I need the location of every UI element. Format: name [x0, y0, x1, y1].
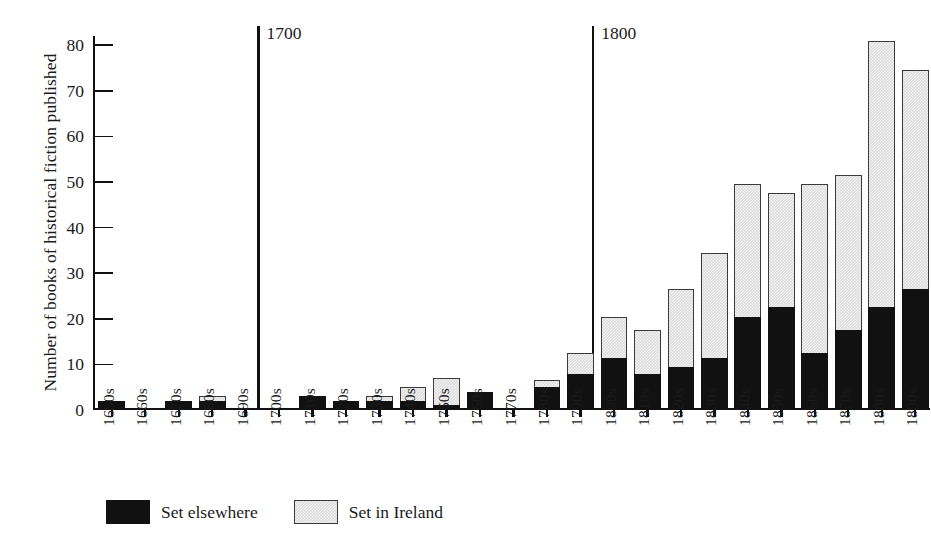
bar-1830s[interactable] [701, 253, 728, 410]
x-axis-label-1710s: 1710s [301, 388, 319, 426]
x-axis-label-1670s: 1670s [167, 388, 185, 426]
x-axis-label-1860s: 1860s [803, 388, 821, 426]
y-tick-20 [95, 318, 113, 320]
x-axis-label-1770s: 1770s [502, 388, 520, 426]
y-tick-30 [95, 272, 113, 274]
y-tick-50 [95, 181, 113, 183]
bar-segment-set-in-ireland [668, 289, 695, 367]
legend-swatch-light [294, 500, 338, 524]
y-tick-label-0: 0 [44, 400, 84, 421]
bar-1860s[interactable] [801, 184, 828, 410]
x-axis-label-1840s: 1840s [736, 388, 754, 426]
x-axis-label-1690s: 1690s [234, 388, 252, 426]
bar-segment-set-in-ireland [634, 330, 661, 373]
x-axis-label-1880s: 1880s [870, 388, 888, 426]
x-axis-label-1890s: 1890s [903, 388, 921, 426]
legend-swatch-dark [106, 500, 150, 524]
bar-segment-set-in-ireland [601, 317, 628, 358]
y-tick-label-70: 70 [44, 80, 84, 101]
bar-segment-set-in-ireland [768, 193, 795, 307]
y-tick-label-50: 50 [44, 171, 84, 192]
bar-1890s[interactable] [902, 70, 929, 410]
bar-segment-set-in-ireland [534, 380, 561, 387]
plot-area: 01020304050607080 17001800 1650s1660s167… [93, 36, 930, 410]
bar-1870s[interactable] [835, 175, 862, 410]
x-axis-label-1700s: 1700s [267, 388, 285, 426]
y-tick-40 [95, 227, 113, 229]
historical-fiction-stacked-bar-chart: Number of books of historical fiction pu… [0, 0, 931, 552]
legend-label: Set in Ireland [349, 502, 443, 523]
x-axis-label-1780s: 1780s [535, 388, 553, 426]
y-tick-label-60: 60 [44, 126, 84, 147]
y-tick-label-80: 80 [44, 35, 84, 56]
y-tick-80 [95, 44, 113, 46]
x-axis-label-1870s: 1870s [836, 388, 854, 426]
x-axis-label-1830s: 1830s [702, 388, 720, 426]
x-axis-label-1650s: 1650s [100, 388, 118, 426]
era-label-1700: 1700 [257, 23, 301, 44]
bar-1840s[interactable] [734, 184, 761, 410]
bar-segment-set-in-ireland [701, 253, 728, 358]
bar-segment-set-in-ireland [902, 70, 929, 289]
bar-segment-set-in-ireland [734, 184, 761, 316]
x-axis-label-1810s: 1810s [635, 388, 653, 426]
x-axis-label-1760s: 1760s [468, 388, 486, 426]
legend-item-set-elsewhere[interactable]: Set elsewhere [106, 500, 258, 524]
x-axis-label-1740s: 1740s [401, 388, 419, 426]
y-tick-10 [95, 364, 113, 366]
bar-segment-set-in-ireland [567, 353, 594, 374]
x-axis-label-1720s: 1720s [334, 388, 352, 426]
chart-legend: Set elsewhereSet in Ireland [106, 500, 443, 524]
x-axis-label-1790s: 1790s [568, 388, 586, 426]
x-axis-label-1750s: 1750s [435, 388, 453, 426]
legend-label: Set elsewhere [161, 502, 258, 523]
x-axis-label-1730s: 1730s [368, 388, 386, 426]
y-tick-label-30: 30 [44, 263, 84, 284]
y-tick-label-40: 40 [44, 217, 84, 238]
bar-1880s[interactable] [868, 41, 895, 410]
y-tick-60 [95, 136, 113, 138]
bar-segment-set-in-ireland [868, 41, 895, 308]
bar-segment-set-in-ireland [801, 184, 828, 353]
era-label-1800: 1800 [592, 23, 636, 44]
x-axis-label-1800s: 1800s [602, 388, 620, 426]
y-axis-line [93, 36, 95, 410]
x-axis-label-1660s: 1660s [133, 388, 151, 426]
y-tick-70 [95, 90, 113, 92]
x-axis-label-1820s: 1820s [669, 388, 687, 426]
x-axis-label-1680s: 1680s [200, 388, 218, 426]
bar-segment-set-in-ireland [835, 175, 862, 330]
y-tick-label-20: 20 [44, 308, 84, 329]
legend-item-set-in-ireland[interactable]: Set in Ireland [294, 500, 443, 524]
x-axis-label-1850s: 1850s [769, 388, 787, 426]
era-rule-1700 [257, 26, 259, 410]
bar-1850s[interactable] [768, 193, 795, 410]
y-tick-label-10: 10 [44, 354, 84, 375]
